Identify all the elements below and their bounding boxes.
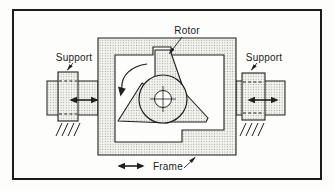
- figure-canvas: Rotor Support Support Frame: [0, 0, 334, 191]
- rotor-frame-support-diagram: Rotor Support Support Frame: [0, 0, 334, 191]
- support-right-label: Support: [246, 52, 282, 63]
- frame-label: Frame: [153, 161, 183, 172]
- support-left-label: Support: [56, 52, 92, 63]
- rotor-label: Rotor: [174, 25, 200, 36]
